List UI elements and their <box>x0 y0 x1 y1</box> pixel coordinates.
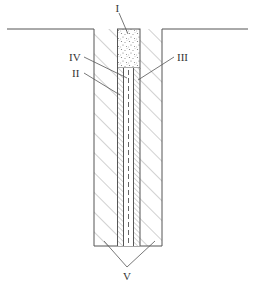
fill-plug <box>118 29 141 68</box>
label-III: III <box>177 51 188 63</box>
label-II: II <box>72 67 80 79</box>
label-I: I <box>116 2 120 14</box>
label-V: V <box>123 270 131 282</box>
label-IV: IV <box>69 51 81 63</box>
cross-section-diagram: I II III IV V <box>0 0 253 292</box>
